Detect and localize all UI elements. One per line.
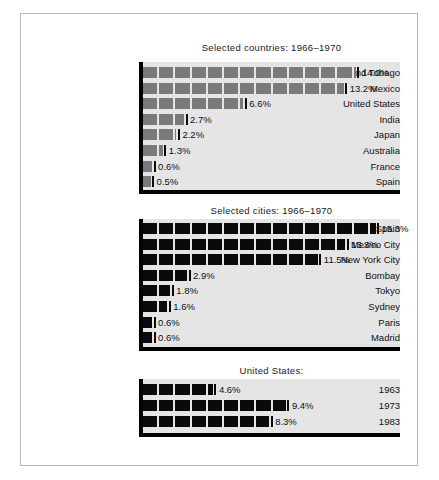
value-tick-australia <box>164 145 166 156</box>
bar-segment-divider <box>222 239 224 250</box>
bar-segment-divider <box>173 416 175 427</box>
bar-segment-divider <box>303 239 305 250</box>
bar-segment-divider <box>173 384 175 395</box>
bar-segment-divider <box>271 67 273 78</box>
bar-segment-divider <box>352 223 354 234</box>
bar-mexico-city <box>143 239 345 250</box>
value-tick-bombay <box>189 270 191 281</box>
bar-segment-divider <box>157 145 159 156</box>
bar-segment-divider <box>254 223 256 234</box>
bar-segment-divider <box>157 83 159 94</box>
bar-paris <box>143 317 152 328</box>
bar-japan <box>143 129 176 140</box>
value-tick-trinidad-and-tobago <box>357 67 359 78</box>
bar-segment-divider <box>352 67 354 78</box>
bar-row-1973: 19739.4% <box>0 399 400 412</box>
bar-segment-divider <box>222 254 224 265</box>
value-label-1973: 9.4% <box>292 399 314 412</box>
value-label-tokyo: 1.8% <box>176 284 198 297</box>
category-label-madrid: Madrid <box>265 331 400 344</box>
chart-title-united-states: United States: <box>143 365 400 376</box>
x-axis-cities <box>139 347 400 351</box>
bar-row-bombay: Bombay2.9% <box>0 269 400 282</box>
bar-segment-divider <box>190 83 192 94</box>
bar-segment-divider <box>157 384 159 395</box>
bar-row-france: France0.6% <box>0 160 400 173</box>
value-label-mexico: 13.2% <box>350 82 377 95</box>
bar-segment-divider <box>206 254 208 265</box>
bar-segment-divider <box>173 270 175 281</box>
bar-segment-divider <box>222 416 224 427</box>
bar-segment-divider <box>335 239 337 250</box>
bar-row-india: India2.7% <box>0 113 400 126</box>
value-tick-sydney <box>169 301 171 312</box>
bar-row-japan: Japan2.2% <box>0 128 400 141</box>
bar-segment-divider <box>173 239 175 250</box>
bar-segment-divider <box>271 223 273 234</box>
bar-segment-divider <box>157 223 159 234</box>
value-label-new-york-city: 11.5% <box>324 253 350 266</box>
bar-segment-divider <box>157 416 159 427</box>
value-label-port-of-spain: 15.3% <box>382 222 409 235</box>
bar-segment-divider <box>319 83 321 94</box>
bar-united-states <box>143 98 243 109</box>
bar-segment-divider <box>254 83 256 94</box>
bar-row-mexico-city: Mexico City13.3% <box>0 238 400 251</box>
bar-trinidad-and-tobago <box>143 67 356 78</box>
bar-segment-divider <box>173 67 175 78</box>
bar-segment-divider <box>254 239 256 250</box>
category-label-france: France <box>265 160 400 173</box>
bar-segment-divider <box>206 400 208 411</box>
bar-segment-divider <box>303 223 305 234</box>
value-tick-spain <box>152 176 154 187</box>
bar-segment-divider <box>157 285 159 296</box>
value-tick-mexico-city <box>347 239 349 250</box>
bar-segment-divider <box>190 239 192 250</box>
value-tick-india <box>186 114 188 125</box>
bar-segment-divider <box>303 83 305 94</box>
bar-segment-divider <box>303 254 305 265</box>
bar-segment-divider <box>238 67 240 78</box>
bar-segment-divider <box>157 254 159 265</box>
x-axis-countries <box>139 190 400 194</box>
bar-france <box>143 161 152 172</box>
bar-segment-divider <box>206 239 208 250</box>
category-label-united-states: United States <box>265 97 400 110</box>
bar-segment-divider <box>287 223 289 234</box>
value-tick-mexico <box>345 83 347 94</box>
value-tick-1983 <box>271 416 273 427</box>
figure-canvas: Selected countries: 1966–1970 Trinidad a… <box>0 0 439 480</box>
bar-new-york-city <box>143 254 318 265</box>
bar-1973 <box>143 400 286 411</box>
bar-sydney <box>143 301 167 312</box>
bar-bombay <box>143 270 187 281</box>
value-label-madrid: 0.6% <box>158 331 180 344</box>
bar-tokyo <box>143 285 170 296</box>
value-tick-paris <box>154 317 156 328</box>
bar-segment-divider <box>254 400 256 411</box>
bar-segment-divider <box>173 223 175 234</box>
bar-row-mexico: Mexico13.2% <box>0 82 400 95</box>
bar-segment-divider <box>206 416 208 427</box>
bar-segment-divider <box>254 254 256 265</box>
bar-segment-divider <box>271 254 273 265</box>
bar-spain <box>143 176 151 187</box>
bar-segment-divider <box>206 223 208 234</box>
value-tick-tokyo <box>172 285 174 296</box>
bar-segment-divider <box>287 83 289 94</box>
bar-segment-divider <box>287 67 289 78</box>
bar-segment-divider <box>368 223 370 234</box>
bar-row-spain: Spain0.5% <box>0 175 400 188</box>
bar-port-of-spain <box>143 223 376 234</box>
bar-segment-divider <box>157 98 159 109</box>
bar-segment-divider <box>206 67 208 78</box>
value-tick-united-states <box>245 98 247 109</box>
bar-segment-divider <box>157 400 159 411</box>
bar-segment-divider <box>271 400 273 411</box>
bar-segment-divider <box>254 67 256 78</box>
x-axis-united-states <box>139 433 400 437</box>
value-label-1983: 8.3% <box>275 415 297 428</box>
bar-segment-divider <box>271 83 273 94</box>
bar-row-trinidad-and-tobago: Trinidad and Tobago14.0% <box>0 66 400 79</box>
value-tick-1963 <box>214 384 216 395</box>
